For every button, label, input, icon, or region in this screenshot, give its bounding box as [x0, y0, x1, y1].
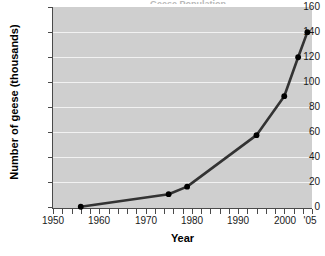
series-line [81, 32, 308, 207]
data-point [78, 204, 84, 210]
data-point [281, 93, 287, 99]
data-point [184, 184, 190, 190]
data-point [254, 132, 260, 138]
data-point [166, 191, 172, 197]
data-point [295, 54, 301, 60]
data-point [304, 29, 310, 35]
